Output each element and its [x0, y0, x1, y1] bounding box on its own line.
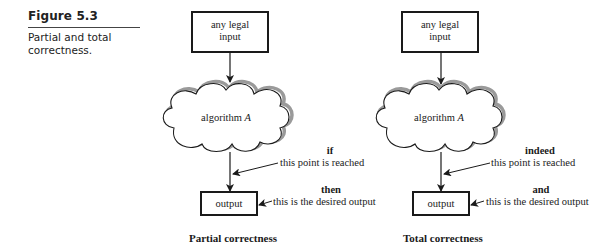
pointer-arrow-icon: [471, 201, 484, 205]
input-box-line1: any legal: [192, 19, 268, 31]
output-box-label: output: [201, 198, 257, 210]
algorithm-text: algorithm: [201, 112, 242, 123]
annotation-point-reached: this point is reached: [491, 157, 575, 169]
input-box-line2: input: [192, 31, 268, 43]
algorithm-label: algorithm A: [176, 112, 276, 124]
annotation-point-reached: this point is reached: [280, 157, 364, 169]
algorithm-label: algorithm A: [389, 112, 489, 124]
pointer-arrow-icon: [233, 163, 278, 174]
annotation-desired-output: this is the desired output: [273, 196, 376, 208]
pointer-arrow-icon: [259, 201, 272, 205]
annotation-keyword-indeed: indeed: [490, 145, 590, 157]
input-box-line1: any legal: [402, 19, 478, 31]
input-box-line2: input: [402, 31, 478, 43]
annotation-keyword-then: then: [278, 184, 384, 196]
diagram-graphics: [0, 0, 616, 248]
algorithm-var: A: [458, 112, 464, 123]
algorithm-var: A: [245, 112, 251, 123]
panel-title-partial: Partial correctness: [189, 232, 277, 244]
annotation-keyword-if: if: [280, 145, 380, 157]
output-box-label: output: [413, 198, 469, 210]
annotation-keyword-and: and: [488, 184, 594, 196]
annotation-desired-output: this is the desired output: [486, 196, 589, 208]
input-box-label: any legal input: [192, 19, 268, 43]
algorithm-text: algorithm: [414, 112, 455, 123]
pointer-arrow-icon: [444, 163, 490, 174]
panel-title-total: Total correctness: [403, 232, 483, 244]
input-box-label: any legal input: [402, 19, 478, 43]
